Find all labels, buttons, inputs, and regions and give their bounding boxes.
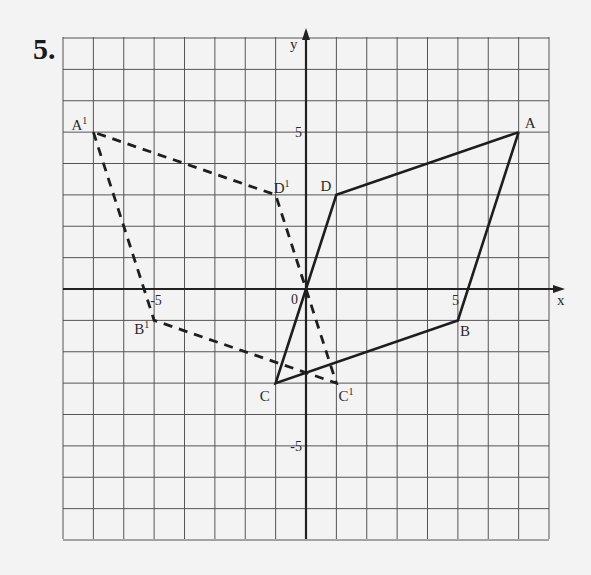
labels: xy0-555-5ABCDA1B1C1D1: [71, 36, 565, 454]
prime-superscript: 1: [144, 319, 149, 330]
axes: [63, 28, 565, 539]
vertex-label-c: C: [260, 388, 270, 404]
coordinate-plane: xy0-555-5ABCDA1B1C1D1: [0, 0, 591, 575]
prime-superscript: 1: [284, 178, 289, 189]
vertex-label-c-prime: C1: [338, 386, 353, 404]
prime-superscript: 1: [348, 386, 353, 397]
vertex-label-a: A: [525, 115, 536, 131]
vertex-label-d: D: [320, 178, 331, 194]
vertex-label-b-prime: B1: [134, 319, 149, 337]
vertex-label-a-prime: A1: [71, 115, 87, 133]
origin-label: 0: [291, 292, 298, 307]
y-tick-label: 5: [295, 125, 302, 140]
y-axis-label: y: [290, 36, 298, 52]
prime-superscript: 1: [82, 115, 87, 126]
y-axis-arrow-icon: [302, 28, 310, 40]
x-axis-label: x: [557, 292, 565, 308]
y-tick-label: -5: [290, 439, 302, 454]
x-tick-label: 5: [452, 293, 459, 308]
vertex-label-d-prime: D1: [274, 178, 290, 196]
x-tick-label: -5: [150, 293, 162, 308]
vertex-label-b: B: [460, 323, 470, 339]
